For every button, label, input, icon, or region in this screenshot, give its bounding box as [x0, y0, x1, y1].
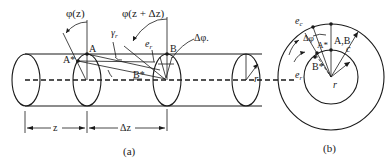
label-a: A [89, 43, 97, 54]
figure-b: A,B c r ec Δφ A* B* er (b) [278, 15, 384, 155]
radius-arrowhead [253, 64, 258, 69]
label-e-r: er [145, 38, 152, 51]
point-outer-rotated [311, 25, 315, 29]
point-b [165, 52, 169, 56]
torsion-diagram: r φ(z) φ(z + Δz) A A* B B* γr [0, 0, 392, 165]
delta-phi-arc [313, 34, 326, 36]
gamma-leader [113, 42, 116, 57]
dim-dz-arrow-left [89, 126, 95, 130]
label-phi-z: φ(z) [66, 7, 85, 20]
label-phi-z-dz: φ(z + Δz) [122, 7, 165, 20]
label-gamma: γr [111, 27, 118, 40]
label-c: c [346, 43, 351, 54]
label-delta-phi: Δφ. [194, 32, 209, 43]
e-r-arrow [294, 52, 305, 62]
label-dz: Δz [120, 122, 131, 133]
radius-c-arrowhead [353, 32, 358, 38]
label-e-c: ec [295, 15, 303, 28]
label-a-star-b: A* [317, 40, 328, 50]
phi-z-arrowhead [66, 28, 70, 33]
gamma-arc-lower [108, 70, 112, 77]
dim-z-arrow-left [27, 126, 33, 130]
label-b-star-b: B* [312, 61, 324, 72]
label-b-star: B* [133, 69, 145, 80]
label-delta-phi-b: Δφ [303, 33, 314, 43]
label-r-b: r [333, 79, 337, 90]
point-b-star-b [313, 55, 317, 59]
label-e-r-b: er [295, 69, 302, 82]
point-a-star-b [315, 51, 319, 55]
caption-a: (a) [123, 145, 136, 158]
point-outer-ab [329, 22, 333, 26]
dim-z-arrow-right [79, 126, 85, 130]
label-r: r [254, 72, 259, 84]
figure-a: r φ(z) φ(z + Δz) A A* B B* γr [12, 7, 296, 158]
fiber-a-star-b-star [78, 61, 166, 79]
point-a-b [329, 48, 333, 52]
dim-dz-arrow-right [159, 126, 165, 130]
label-a-star: A* [63, 54, 75, 65]
hatch-1 [160, 57, 166, 78]
fiber-line [78, 61, 155, 62]
gamma-arc [115, 57, 122, 60]
label-z: z [53, 122, 58, 133]
e-r-leader [152, 50, 154, 62]
phi-z-dz-arc [133, 19, 167, 41]
caption-b: (b) [323, 142, 336, 155]
